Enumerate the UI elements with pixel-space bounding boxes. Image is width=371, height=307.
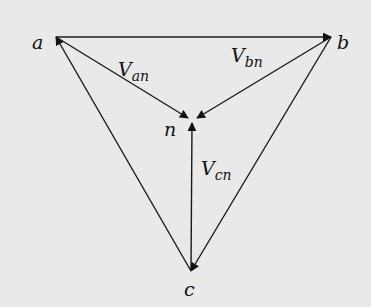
edge-v-bn: [197, 37, 331, 118]
node-label-c: c: [184, 278, 195, 300]
label-v-cn: Vcn: [201, 157, 232, 183]
label-v-bn: Vbn: [231, 44, 263, 70]
node-label-b: b: [337, 31, 349, 53]
label-v-an: Van: [118, 58, 149, 84]
phasor-diagram: a b n c Van Vbn Vcn: [0, 0, 371, 307]
label-v-bn-sub: bn: [245, 54, 263, 70]
label-v-cn-sub: cn: [215, 167, 232, 183]
node-label-n: n: [164, 118, 176, 140]
node-label-a: a: [32, 31, 43, 53]
edge-b-to-c: [191, 37, 331, 271]
label-v-an-sub: an: [132, 68, 149, 84]
edge-v-cn: [191, 123, 192, 271]
